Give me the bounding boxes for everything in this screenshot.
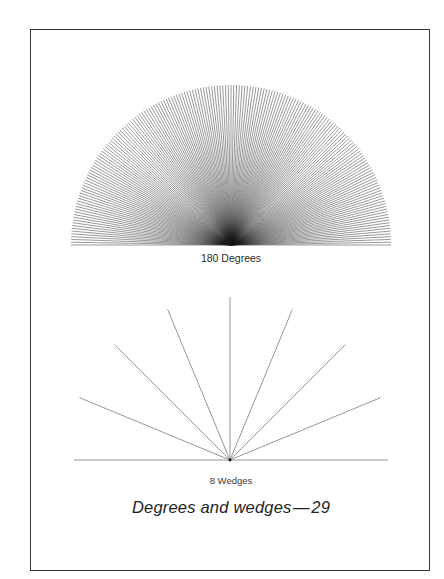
wedge-ray [230,398,381,460]
degrees-fan-diagram [71,85,391,245]
degrees-label: 180 Degrees [0,252,444,264]
figure-canvas [0,0,444,579]
figure-caption: Degrees and wedges — 29 [0,498,444,517]
wedges-label: 8 Wedges [0,475,444,486]
degree-ray [95,160,231,245]
wedge-ray [230,309,292,460]
wedge-ray [115,345,230,460]
wedge-ray [168,309,230,460]
degree-ray [231,109,316,245]
wedges-fan-diagram [74,297,388,461]
wedge-ray [230,345,345,460]
degree-ray [146,109,231,245]
degree-ray [231,160,367,245]
wedge-ray [79,398,230,460]
wedge-center-point [229,459,232,462]
